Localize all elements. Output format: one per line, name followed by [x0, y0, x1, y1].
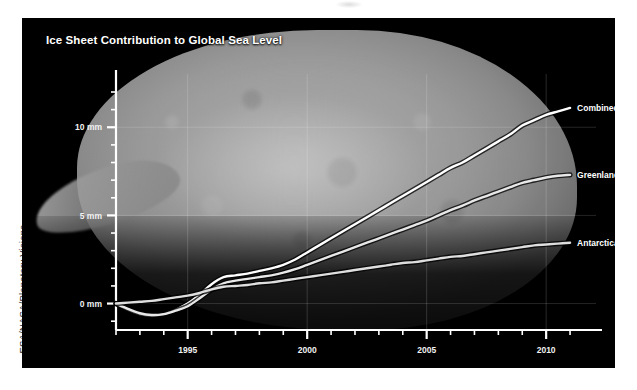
series-line-combined	[116, 108, 570, 316]
gridlines	[116, 74, 596, 330]
y-tick-label: 10 mm	[75, 122, 102, 132]
x-tick-label: 2000	[298, 345, 317, 355]
y-tick-label: 0 mm	[80, 299, 103, 309]
series-labels: CombinedGreenlandAntarctica	[577, 103, 615, 248]
series-label-antarctica: Antarctica	[577, 238, 615, 248]
chart-panel: Ice Sheet Contribution to Global Sea Lev…	[22, 18, 615, 368]
figure: ESA/NASA/Planetary Visions Ice Sheet Con…	[0, 0, 637, 390]
scan-artifact	[336, 1, 362, 8]
y-tick-label: 5 mm	[80, 211, 103, 221]
series-label-combined: Combined	[577, 103, 615, 113]
axis-tick-labels: 0 mm5 mm10 mm1995200020052010	[75, 122, 556, 355]
line-chart: 0 mm5 mm10 mm1995200020052010 CombinedGr…	[22, 18, 615, 368]
series-label-greenland: Greenland	[577, 170, 615, 180]
x-tick-label: 2010	[537, 345, 556, 355]
data-series	[116, 108, 570, 316]
x-tick-label: 2005	[417, 345, 436, 355]
x-tick-label: 1995	[178, 345, 197, 355]
